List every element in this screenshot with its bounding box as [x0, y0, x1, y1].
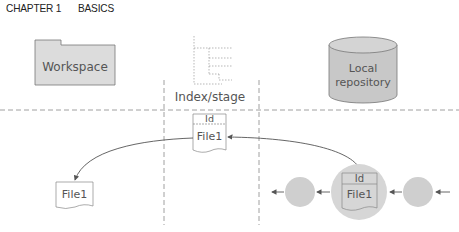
repository-label-line2: repository [335, 76, 391, 89]
reset-arrow [228, 137, 361, 172]
workspace-label: Workspace [42, 60, 108, 74]
workspace-file-name: File1 [62, 188, 87, 201]
index-file-name: File1 [197, 130, 222, 143]
commit-file-name: File1 [347, 188, 372, 201]
checkout-arrow [75, 138, 193, 180]
repository-label-line1: Local [349, 62, 378, 75]
tree-icon [194, 36, 232, 84]
commit-node-parent [285, 177, 315, 207]
index-file-id: Id [205, 113, 214, 124]
commit-node-child [403, 177, 433, 207]
commit-file-id: Id [355, 173, 364, 184]
index-label: Index/stage [175, 90, 245, 104]
git-diagram: Workspace Index/stage Local repository I… [0, 0, 459, 232]
